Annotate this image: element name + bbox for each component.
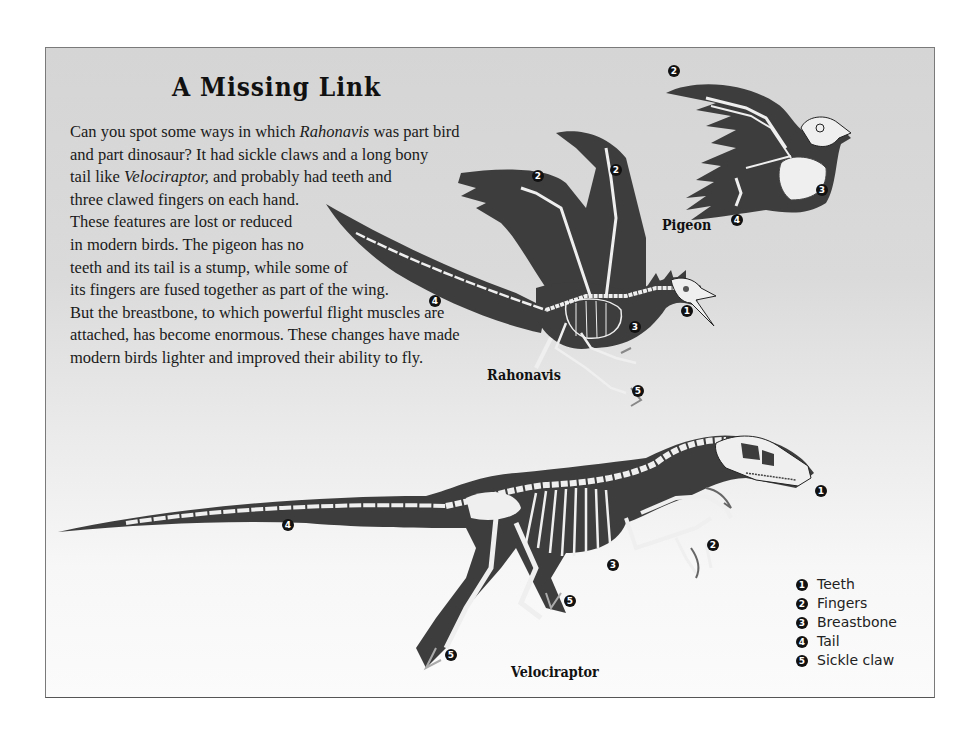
number-4-icon: 4 (796, 636, 808, 648)
velociraptor-label: Velociraptor (511, 663, 599, 681)
legend-label: Teeth (817, 575, 855, 594)
rahonavis-callout-2-icon: 2 (532, 170, 544, 182)
rahonavis-callout-5-icon: 5 (632, 385, 644, 397)
velociraptor-callout-1-icon: 1 (815, 485, 827, 497)
rahonavis-callout-1-icon: 1 (681, 305, 693, 317)
velociraptor-callout-3-icon: 3 (607, 559, 619, 571)
rahonavis-callout-3-icon: 3 (629, 321, 641, 333)
legend-item-breastbone: 3 Breastbone (796, 613, 897, 632)
rahonavis-label: Rahonavis (487, 366, 561, 384)
legend-item-sickle-claw: 5 Sickle claw (796, 651, 897, 670)
legend-label: Tail (817, 632, 840, 651)
number-2-icon: 2 (796, 598, 808, 610)
missing-link-panel: A Missing Link Can you spot some ways in… (45, 47, 935, 698)
legend-label: Fingers (817, 594, 867, 613)
number-1-icon: 1 (796, 579, 808, 591)
velociraptor-callout-4-icon: 4 (282, 519, 294, 531)
pigeon-illustration (666, 84, 851, 220)
rahonavis-callout-4-icon: 4 (429, 295, 441, 307)
legend-label: Sickle claw (817, 651, 894, 670)
legend-item-teeth: 1 Teeth (796, 575, 897, 594)
legend-item-tail: 4 Tail (796, 632, 897, 651)
rahonavis-illustration (326, 131, 716, 406)
legend: 1 Teeth 2 Fingers 3 Breastbone 4 Tail 5 … (796, 575, 897, 670)
pigeon-callout-2-icon: 2 (668, 65, 680, 77)
legend-item-fingers: 2 Fingers (796, 594, 897, 613)
number-5-icon: 5 (796, 655, 808, 667)
pigeon-label: Pigeon (662, 216, 711, 234)
pigeon-callout-3-icon: 3 (816, 184, 828, 196)
velociraptor-callout-2-icon: 2 (707, 539, 719, 551)
rahonavis-callout-2-icon: 2 (610, 164, 622, 176)
velociraptor-illustration (58, 435, 814, 668)
pigeon-callout-4-icon: 4 (731, 214, 743, 226)
number-3-icon: 3 (796, 617, 808, 629)
legend-label: Breastbone (817, 613, 897, 632)
velociraptor-callout-5-icon: 5 (445, 649, 457, 661)
velociraptor-callout-5-icon: 5 (564, 595, 576, 607)
